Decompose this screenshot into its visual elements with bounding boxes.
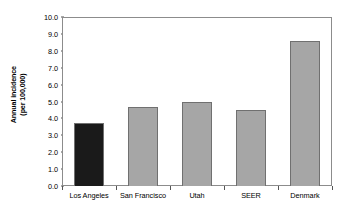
x-axis-tick-mark [278, 186, 279, 190]
x-axis-tick-mark [332, 186, 333, 190]
x-axis-category-label: Los Angeles [62, 190, 116, 206]
x-axis-category-label: Utah [170, 190, 224, 206]
plot-area [62, 17, 332, 186]
y-axis-tick-label: 7.0 [26, 63, 58, 72]
x-axis-tick-mark [170, 186, 171, 190]
y-axis-tick-label: 4.0 [26, 114, 58, 123]
y-axis-title-line-1: Annual incidence [10, 66, 19, 123]
x-axis-tick-mark [116, 186, 117, 190]
x-axis-category-labels: Los AngelesSan FranciscoUtahSEERDenmark [62, 190, 332, 206]
x-axis-category-label: Denmark [278, 190, 332, 206]
y-axis-tick-label: 3.0 [26, 131, 58, 140]
y-axis-tick-label: 8.0 [26, 46, 58, 55]
y-axis-tick-label: 2.0 [26, 148, 58, 157]
y-axis-tick-label: 0.0 [26, 182, 58, 191]
x-axis-tick-mark [62, 186, 63, 190]
y-axis-tick-label: 5.0 [26, 97, 58, 106]
x-axis-tick-mark [224, 186, 225, 190]
y-axis-tick-label: 6.0 [26, 80, 58, 89]
y-axis-tick-label: 1.0 [26, 165, 58, 174]
bar-chart: Annual incidence (per 100,000) 0.01.02.0… [0, 0, 343, 207]
x-axis-category-label: San Francisco [116, 190, 170, 206]
y-axis-tick-labels: 0.01.02.03.04.05.06.07.08.09.010.0 [26, 0, 58, 207]
y-axis-tick-label: 10.0 [26, 13, 58, 22]
x-axis-category-label: SEER [224, 190, 278, 206]
y-axis-tick-label: 9.0 [26, 29, 58, 38]
